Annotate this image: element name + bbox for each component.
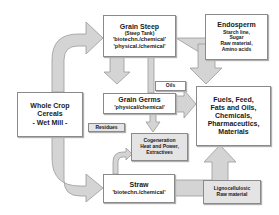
lignocellulosic-line2: Raw material bbox=[217, 192, 248, 198]
grain-steep-box: Grain Steep (Steep Tank) 'biotechn./chem… bbox=[103, 15, 176, 57]
whole-crop-box: Whole Crop Cereals - Wet Mill - bbox=[17, 92, 83, 137]
oils-label: Oils bbox=[155, 81, 186, 91]
arrow-steep-to-germs bbox=[104, 57, 130, 84]
straw-box: Straw 'biotechn./chemical' bbox=[103, 174, 175, 203]
straw-title: Straw bbox=[129, 181, 148, 189]
arrow-wholecrop-to-straw bbox=[52, 135, 103, 202]
whole-crop-line2: Cereals bbox=[37, 110, 62, 118]
cogeneration-box: Cogeneration Heat and Power, Extractives bbox=[131, 133, 188, 161]
lignocellulosic-box: Lignocellulosic Raw material bbox=[203, 180, 261, 204]
straw-line1: 'biotechn./chemical' bbox=[112, 189, 165, 195]
products-line2: Fats and Oils, bbox=[211, 104, 257, 112]
grain-steep-line2: 'physical./chemical' bbox=[113, 43, 165, 49]
biorefinery-diagram: Whole Crop Cereals - Wet Mill - Grain St… bbox=[0, 0, 279, 215]
products-box: Fuels, Feed, Fats and Oils, Chemicals, P… bbox=[196, 86, 271, 146]
residues-text: Residues bbox=[95, 125, 117, 131]
grain-germs-title: Grain Germs bbox=[118, 96, 160, 104]
products-line3: Chemicals, bbox=[215, 112, 252, 120]
residues-label: Residues bbox=[88, 123, 125, 132]
products-line4: Pharmaceutics, bbox=[208, 120, 260, 128]
arrow-straw-to-cogen bbox=[113, 148, 132, 174]
grain-germs-box: Grain Germs 'physical/chemical' bbox=[103, 93, 176, 114]
whole-crop-line1: Whole Crop bbox=[30, 102, 69, 110]
endosperm-line4: Amino acids bbox=[222, 47, 252, 53]
cogeneration-line3: Extractives bbox=[146, 150, 173, 156]
products-line5: Materials bbox=[218, 128, 248, 136]
arrow-wholecrop-to-steep bbox=[52, 22, 103, 92]
endosperm-box: Endosperm Starch line, Sugar Raw materia… bbox=[205, 14, 268, 60]
arrow-germs-to-products bbox=[176, 90, 196, 118]
products-line1: Fuels, Feed, bbox=[213, 96, 253, 104]
grain-germs-line1: 'physical/chemical' bbox=[114, 104, 165, 110]
arrow-germs-to-cogen bbox=[146, 113, 160, 132]
whole-crop-line3: - Wet Mill - bbox=[33, 119, 68, 127]
oils-text: Oils bbox=[166, 83, 175, 89]
arrow-steep-line bbox=[148, 57, 154, 93]
